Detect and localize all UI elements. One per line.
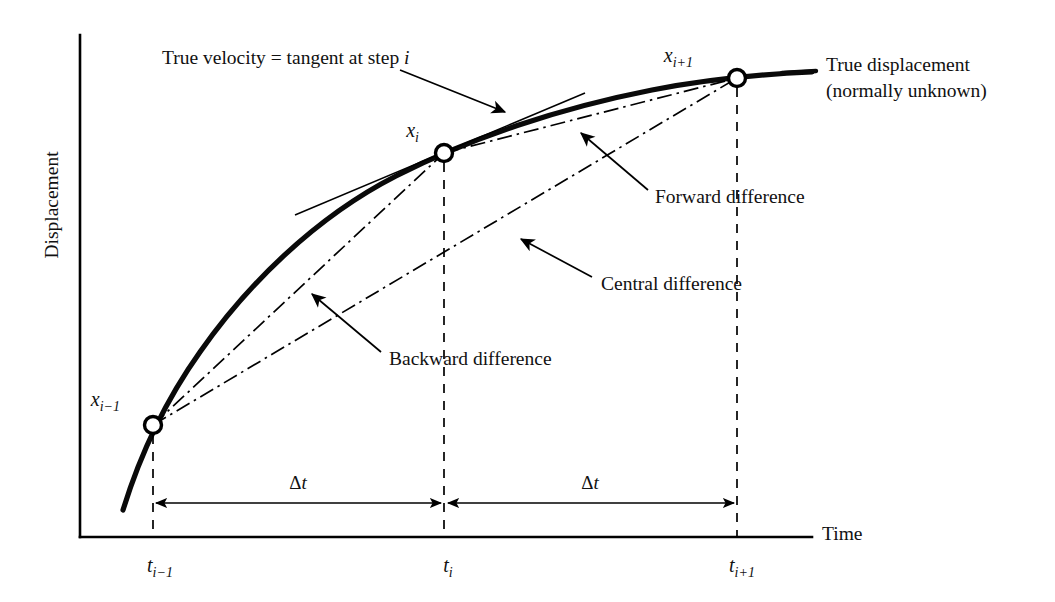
tick-label-t-ip1: ti+1 [729,554,755,580]
y-axis-label: Displacement [41,151,62,259]
tick-label-t-im1: ti−1 [147,554,173,580]
marker-x-i [436,145,453,162]
backward-callout-group: Backward difference [312,294,552,369]
forward-callout-leader [581,133,648,190]
legend-label-line2: (normally unknown) [826,80,987,102]
tangent-callout-group: True velocity = tangent at step i [162,47,505,112]
finite-difference-diagram: xi−1 xi xi+1 Displacement Time ti−1 ti t… [0,0,1055,602]
legend-group: True displacement (normally unknown) [782,54,987,102]
tangent-callout-leader [400,70,505,112]
backward-difference-label: Backward difference [389,348,552,369]
marker-x-im1 [145,417,162,434]
central-difference-label: Central difference [601,273,742,294]
x-axis-label: Time [822,523,862,544]
central-difference-chord [153,78,737,425]
delta-t-label-left: Δt [289,472,307,493]
marker-x-ip1 [729,70,746,87]
label-x-im1: xi−1 [90,388,120,414]
tangent-note-label: True velocity = tangent at step i [162,47,410,68]
backward-callout-leader [312,294,381,352]
tick-label-t-i: ti [443,554,453,580]
label-x-ip1: xi+1 [663,44,693,70]
central-callout-leader [521,239,592,277]
forward-callout-group: Forward difference [581,133,805,207]
figure-root: xi−1 xi xi+1 Displacement Time ti−1 ti t… [0,0,1055,602]
tick-labels-group: ti−1 ti ti+1 [147,554,755,580]
delta-t-label-right: Δt [581,472,599,493]
central-callout-group: Central difference [521,239,742,294]
label-x-i: xi [405,119,419,145]
legend-swatch-true-displacement [782,71,816,73]
backward-difference-chord [153,153,444,425]
delta-t-dimensions-group: Δt Δt [156,472,734,503]
forward-difference-label: Forward difference [655,186,805,207]
legend-label-line1: True displacement [826,54,970,75]
